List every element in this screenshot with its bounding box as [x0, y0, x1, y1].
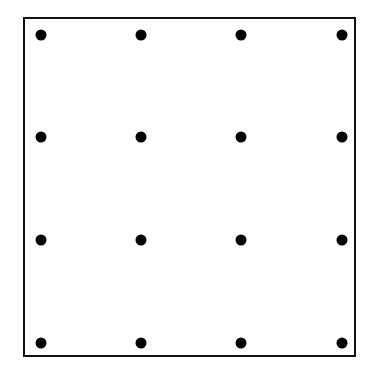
grid-dot-r3-c2: [236, 338, 247, 349]
grid-dot-r0-c1: [136, 30, 147, 41]
grid-dot-r3-c1: [136, 338, 147, 349]
grid-dot-r2-c2: [236, 235, 247, 246]
square-frame: [23, 17, 356, 357]
grid-dot-r1-c3: [337, 132, 348, 143]
grid-dot-r2-c3: [337, 235, 348, 246]
grid-dot-r2-c0: [36, 235, 47, 246]
grid-dot-r3-c3: [337, 338, 348, 349]
grid-dot-r0-c3: [337, 30, 348, 41]
grid-dot-r0-c2: [236, 30, 247, 41]
grid-dot-r1-c0: [36, 132, 47, 143]
grid-dot-r0-c0: [36, 30, 47, 41]
grid-dot-r2-c1: [136, 235, 147, 246]
grid-dot-r1-c1: [136, 132, 147, 143]
grid-dot-r3-c0: [36, 338, 47, 349]
grid-dot-r1-c2: [236, 132, 247, 143]
